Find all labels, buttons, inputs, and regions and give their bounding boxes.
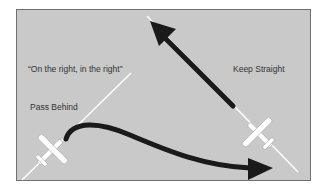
pass-behind-arrow: [66, 125, 273, 180]
right-aircraft-icon: [235, 110, 284, 159]
pass-behind-label: Pass Behind: [30, 102, 78, 112]
rule-quote-label: “On the right, in the right”: [28, 64, 123, 74]
keep-straight-label: Keep Straight: [233, 64, 285, 74]
keep-straight-arrow: [150, 21, 233, 106]
diagram-artwork: [0, 0, 325, 193]
